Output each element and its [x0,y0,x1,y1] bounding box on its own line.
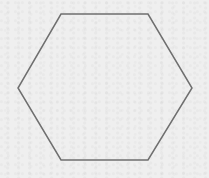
hexagon-outline [18,14,192,160]
diagram-canvas [0,0,209,178]
hexagon-figure [0,0,209,178]
